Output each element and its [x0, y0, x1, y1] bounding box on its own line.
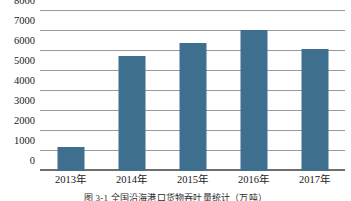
y-axis-tick-labels: 800070006000500040003000200010000	[40, 11, 345, 171]
y-axis-tick-label: 6000	[14, 35, 35, 46]
x-axis-tick-label: 2015年	[177, 175, 208, 186]
y-axis-tick-label: 1000	[14, 135, 35, 146]
y-axis-tick-label: 3000	[14, 95, 35, 106]
x-axis-tick-label: 2014年	[116, 175, 147, 186]
plot-area: 800070006000500040003000200010000	[40, 11, 345, 171]
y-axis-tick-label: 2000	[14, 115, 35, 126]
y-axis-tick-label: 5000	[14, 55, 35, 66]
y-axis-tick-label: 7000	[14, 15, 35, 26]
chart-figure: 800070006000500040003000200010000 2013年2…	[0, 0, 351, 201]
y-axis-tick-label: 4000	[14, 75, 35, 86]
x-axis-tick-label: 2017年	[299, 175, 330, 186]
y-axis-tick-label: 0	[30, 155, 35, 166]
y-axis-tick-label: 8000	[14, 0, 35, 6]
x-axis-tick-labels: 2013年2014年2015年2016年2017年	[40, 175, 345, 189]
x-axis-tick-label: 2016年	[238, 175, 269, 186]
figure-caption: 图 3-1 全国沿海港口货物吞吐量统计（万吨）	[0, 191, 351, 201]
x-axis-tick-label: 2013年	[55, 175, 86, 186]
